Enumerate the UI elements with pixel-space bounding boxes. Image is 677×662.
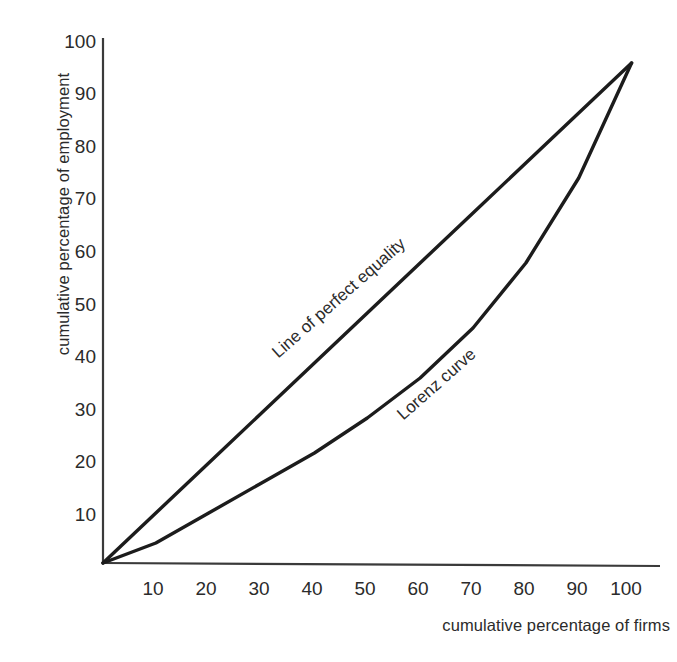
series-line-of-perfect-equality — [103, 63, 632, 563]
x-axis-title: cumulative percentage of firms — [330, 616, 670, 635]
x-axis-line — [103, 563, 660, 566]
plot-area — [0, 0, 677, 662]
lorenz-curve-figure: cumulative percentage of employment 100 … — [0, 0, 677, 662]
